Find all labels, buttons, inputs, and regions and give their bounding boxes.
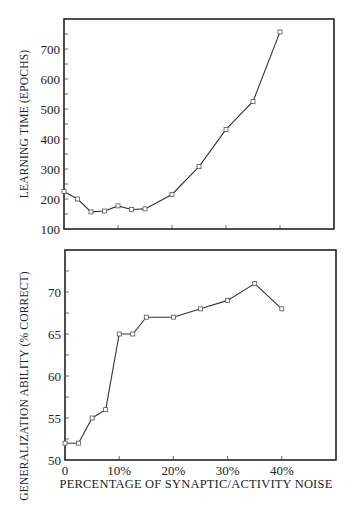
y-tick-label: 300 xyxy=(41,162,61,177)
data-point-marker xyxy=(130,208,134,212)
y-tick-label: 55 xyxy=(48,411,61,426)
y-tick-label: 700 xyxy=(41,42,61,57)
x-tick-label: 0 xyxy=(62,463,69,478)
bottom-y-axis-title: GENERALIZATION ABILITY (% CORRECT) xyxy=(18,271,31,501)
learning-time-plot: 100200300400500600700 LEARNING TIME (EPO… xyxy=(18,19,334,237)
data-point-marker xyxy=(199,307,203,311)
data-point-marker xyxy=(197,165,201,169)
data-point-marker xyxy=(224,127,228,131)
data-point-marker xyxy=(77,441,81,445)
x-tick-label: 40% xyxy=(270,463,294,478)
learning-time-line xyxy=(64,32,280,212)
generalization-markers xyxy=(63,282,284,446)
data-point-marker xyxy=(251,100,255,104)
data-point-marker xyxy=(131,332,135,336)
y-tick-label: 400 xyxy=(41,132,61,147)
data-point-marker xyxy=(63,441,67,445)
data-point-marker xyxy=(280,307,284,311)
bottom-y-axis: 5055606570 xyxy=(48,250,69,468)
y-tick-label: 60 xyxy=(48,369,61,384)
data-point-marker xyxy=(89,210,93,214)
data-point-marker xyxy=(144,315,148,319)
bottom-plot-frame xyxy=(65,250,336,460)
data-point-marker xyxy=(253,282,257,286)
data-point-marker xyxy=(226,298,230,302)
x-tick-label: 30% xyxy=(216,463,240,478)
generalization-line xyxy=(65,284,282,444)
x-tick-label: 20% xyxy=(161,463,185,478)
data-point-marker xyxy=(278,30,282,34)
data-point-marker xyxy=(62,190,66,194)
y-tick-label: 600 xyxy=(41,72,61,87)
data-point-marker xyxy=(116,204,120,208)
y-tick-label: 70 xyxy=(48,285,61,300)
data-point-marker xyxy=(76,197,80,201)
data-point-marker xyxy=(143,207,147,211)
y-tick-label: 65 xyxy=(48,327,61,342)
data-point-marker xyxy=(103,209,107,213)
y-tick-label: 500 xyxy=(41,102,61,117)
data-point-marker xyxy=(104,408,108,412)
figure: 100200300400500600700 LEARNING TIME (EPO… xyxy=(0,0,353,513)
data-point-marker xyxy=(90,416,94,420)
data-point-marker xyxy=(171,315,175,319)
x-tick-label: 10% xyxy=(107,463,131,478)
y-tick-label: 100 xyxy=(41,222,61,237)
y-tick-label: 50 xyxy=(48,453,61,468)
generalization-plot: 5055606570 010%20%30%40% GENERALIZATION … xyxy=(18,250,336,501)
data-point-marker xyxy=(170,193,174,197)
top-plot-frame xyxy=(64,19,334,229)
bottom-x-axis-title: PERCENTAGE OF SYNAPTIC/ACTIVITY NOISE xyxy=(60,477,333,491)
data-point-marker xyxy=(117,332,121,336)
y-tick-label: 200 xyxy=(41,192,61,207)
top-y-axis-title: LEARNING TIME (EPOCHS) xyxy=(18,50,31,199)
learning-time-markers xyxy=(62,30,282,214)
